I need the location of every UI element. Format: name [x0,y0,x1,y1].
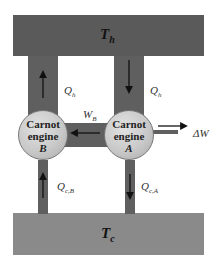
qca-label: Qc,A [141,180,158,195]
wb-label: WB [83,108,96,123]
qh-left-label: Qh [64,84,75,99]
qh-right-label: Qh [150,84,161,99]
delta-w-label: ΔW [193,127,209,139]
qcb-label: Qc,B [57,180,74,195]
flow-arrows [0,0,217,262]
